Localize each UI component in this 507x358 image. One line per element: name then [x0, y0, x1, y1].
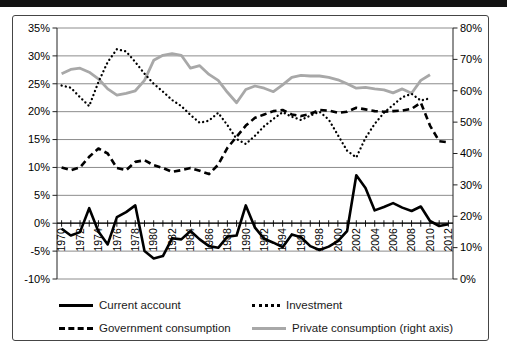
series-line-government-consumption: [62, 103, 449, 174]
right-axis-tick-label: 70%: [460, 53, 482, 65]
x-axis-year-label: 2006: [387, 228, 399, 252]
x-axis-year-label: 1988: [221, 228, 233, 252]
left-axis-tick-label: 10%: [28, 161, 50, 173]
legend-swatch-dotted-line: [252, 304, 280, 307]
left-axis-tick-label: 35%: [28, 22, 50, 34]
right-axis-tick-label: 80%: [460, 22, 482, 34]
page: 35%30%25%20%15%10%5%0%-5%-10%80%70%60%50…: [0, 0, 507, 358]
right-axis-tick-label: 40%: [460, 147, 482, 159]
legend-item-current-account: Current account: [59, 299, 181, 311]
legend-label-government-consumption: Government consumption: [99, 322, 231, 334]
left-axis-tick-label: 25%: [28, 78, 50, 90]
series-line-investment: [62, 49, 430, 157]
right-axis-tick-label: 50%: [460, 116, 482, 128]
left-axis-tick-label: 30%: [28, 50, 50, 62]
right-axis-tick-label: 30%: [460, 179, 482, 191]
left-axis-tick-label: 20%: [28, 105, 50, 117]
left-axis-tick-label: 5%: [34, 189, 50, 201]
legend-swatch-solid-line: [59, 304, 93, 307]
legend-item-government-consumption: Government consumption: [59, 322, 231, 334]
x-axis-year-label: 2008: [405, 228, 417, 252]
x-axis-year-label: 2002: [350, 228, 362, 252]
legend-label-private-consumption: Private consumption (right axis): [292, 322, 453, 334]
legend-swatch-dashed-line: [59, 327, 93, 330]
x-axis-year-label: 1990: [240, 228, 252, 252]
x-axis-year-label: 1980: [147, 228, 159, 252]
series-line-private-consumption-right-axis: [62, 54, 430, 103]
right-axis-tick-label: 20%: [460, 210, 482, 222]
left-axis-tick-label: -5%: [30, 245, 50, 257]
left-axis-tick-label: 15%: [28, 133, 50, 145]
left-axis-tick-label: -10%: [24, 273, 50, 285]
right-axis-tick-label: 10%: [460, 241, 482, 253]
legend-item-private-consumption: Private consumption (right axis): [252, 322, 453, 334]
legend-swatch-gray-line: [252, 327, 286, 330]
left-axis-tick-label: 0%: [34, 217, 50, 229]
legend-label-investment: Investment: [286, 299, 342, 311]
x-axis-year-label: 2004: [369, 228, 381, 252]
right-axis-tick-label: 60%: [460, 85, 482, 97]
right-axis-tick-label: 0%: [460, 273, 476, 285]
x-axis-year-label: 2010: [424, 228, 436, 252]
legend-item-investment: Investment: [252, 299, 342, 311]
x-axis-year-label: 2012: [442, 228, 454, 252]
legend-label-current-account: Current account: [99, 299, 181, 311]
